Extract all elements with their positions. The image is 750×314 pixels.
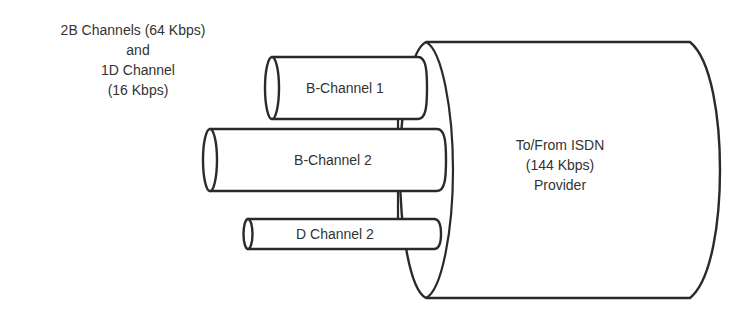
d-channel-cylinder: D Channel 2: [244, 219, 442, 249]
caption-line-1: 2B Channels (64 Kbps): [61, 22, 206, 38]
channel-label: D Channel 2: [296, 226, 374, 242]
channel-label: B-Channel 1: [306, 80, 384, 96]
provider-cylinder: To/From ISDN (144 Kbps) Provider: [400, 42, 720, 298]
isdn-channels-diagram: 2B Channels (64 Kbps) and 1D Channel (16…: [0, 0, 750, 314]
caption: 2B Channels (64 Kbps) and 1D Channel (16…: [61, 22, 206, 98]
b-channel-1-cylinder: B-Channel 1: [265, 57, 427, 119]
caption-line-2: and: [126, 42, 149, 58]
caption-line-3: 1D Channel: [101, 62, 175, 78]
channel-label: B-Channel 2: [294, 152, 372, 168]
provider-label-line-1: To/From ISDN: [516, 137, 605, 153]
provider-label-line-3: Provider: [534, 177, 586, 193]
provider-label-line-2: (144 Kbps): [526, 157, 594, 173]
caption-line-4: (16 Kbps): [108, 82, 169, 98]
b-channel-2-cylinder: B-Channel 2: [203, 129, 446, 191]
